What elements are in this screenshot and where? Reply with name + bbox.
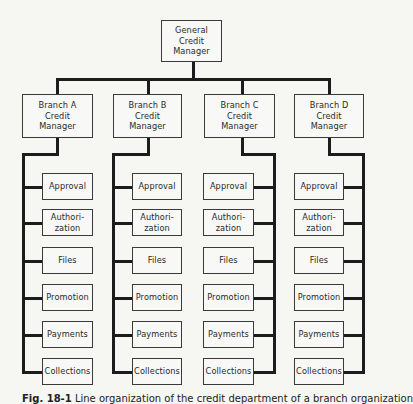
branch-c-function-box: Files xyxy=(203,247,254,274)
branch-b-function-box: Collections xyxy=(132,358,182,385)
branch-a-box: Branch A Credit Manager xyxy=(22,94,93,138)
branch-c-function-connector xyxy=(254,260,276,263)
branch-b-function-connector xyxy=(112,222,132,225)
branch-b-drop xyxy=(147,78,150,94)
branch-c-function-connector xyxy=(254,297,276,300)
branch-b-function-box: Payments xyxy=(132,321,182,348)
branch-d-function-connector xyxy=(344,371,365,374)
branch-d-function-connector xyxy=(344,186,365,189)
branch-c-function-connector xyxy=(254,222,276,225)
branch-d-box: Branch D Credit Manager xyxy=(294,94,364,138)
branch-b-function-connector xyxy=(112,297,132,300)
branch-c-function-box: Approval xyxy=(203,173,254,200)
branch-a-function-connector xyxy=(22,371,42,374)
branch-c-function-box: Payments xyxy=(203,321,254,348)
branch-d-elbow xyxy=(328,153,365,156)
branch-d-function-connector xyxy=(344,260,365,263)
branch-a-function-box: Authori- zation xyxy=(42,209,93,236)
branch-a-function-connector xyxy=(22,334,42,337)
branch-a-elbow xyxy=(22,153,59,156)
branch-a-function-box: Collections xyxy=(42,358,93,385)
branch-c-function-connector xyxy=(254,371,276,374)
branch-c-function-box: Collections xyxy=(203,358,254,385)
branch-b-function-connector xyxy=(112,371,132,374)
branch-bar xyxy=(56,78,331,81)
branch-a-function-connector xyxy=(22,222,42,225)
branch-a-function-box: Promotion xyxy=(42,284,93,311)
figure-caption: Fig. 18-1 Line organization of the credi… xyxy=(22,393,413,404)
branch-d-function-box: Authori- zation xyxy=(294,209,344,236)
branch-d-function-box: Approval xyxy=(294,173,344,200)
branch-c-function-connector xyxy=(254,334,276,337)
branch-a-function-box: Files xyxy=(42,247,93,274)
branch-c-function-box: Promotion xyxy=(203,284,254,311)
branch-c-elbow xyxy=(241,153,276,156)
branch-a-function-connector xyxy=(22,260,42,263)
branch-b-function-box: Authori- zation xyxy=(132,209,182,236)
branch-d-function-connector xyxy=(344,334,365,337)
branch-a-function-box: Payments xyxy=(42,321,93,348)
caption-text: Line organization of the credit departme… xyxy=(75,393,413,404)
general-credit-manager-box: General Credit Manager xyxy=(161,20,222,62)
branch-d-function-box: Collections xyxy=(294,358,344,385)
branch-c-box: Branch C Credit Manager xyxy=(204,94,275,138)
branch-d-function-box: Payments xyxy=(294,321,344,348)
branch-b-function-box: Files xyxy=(132,247,182,274)
branch-b-function-connector xyxy=(112,334,132,337)
branch-a-function-connector xyxy=(22,297,42,300)
branch-c-function-box: Authori- zation xyxy=(203,209,254,236)
branch-b-function-connector xyxy=(112,260,132,263)
branch-b-function-box: Promotion xyxy=(132,284,182,311)
branch-d-function-box: Files xyxy=(294,247,344,274)
branch-b-box: Branch B Credit Manager xyxy=(113,94,182,138)
branch-a-drop xyxy=(56,78,59,94)
branch-c-drop xyxy=(241,78,244,94)
branch-d-function-connector xyxy=(344,222,365,225)
branch-b-elbow xyxy=(112,153,150,156)
branch-a-function-connector xyxy=(22,186,42,189)
branch-a-function-box: Approval xyxy=(42,173,93,200)
branch-b-function-connector xyxy=(112,186,132,189)
figure-number: Fig. 18-1 xyxy=(22,393,72,404)
branch-d-function-box: Promotion xyxy=(294,284,344,311)
branch-b-function-box: Approval xyxy=(132,173,182,200)
branch-d-function-connector xyxy=(344,297,365,300)
branch-c-function-connector xyxy=(254,186,276,189)
branch-d-drop xyxy=(328,78,331,94)
